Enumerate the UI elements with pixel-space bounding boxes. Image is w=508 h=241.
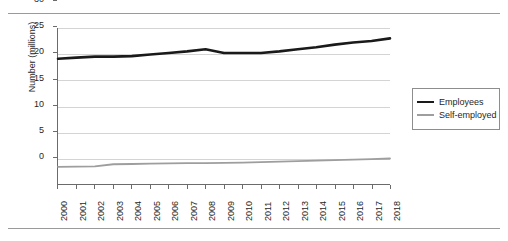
series-line-self-employed (58, 159, 390, 167)
x-tick-mark (242, 185, 243, 189)
x-tick-mark (279, 185, 280, 189)
chart-legend: Employees Self-employed (412, 88, 500, 130)
x-tick-label: 2010 (245, 201, 254, 221)
y-tick-label: 0 (18, 152, 44, 161)
x-tick-label: 2005 (153, 201, 162, 221)
y-tick-label: 10 (18, 100, 44, 109)
x-tick-mark (150, 185, 151, 189)
x-tick-mark (372, 185, 373, 189)
y-tick-label: 30 (18, 0, 44, 4)
x-tick-mark (187, 185, 188, 189)
legend-swatch-line-icon (417, 114, 434, 116)
y-tick-label: 25 (18, 21, 44, 30)
x-tick-label: 2017 (375, 201, 384, 221)
x-tick-label: 2003 (116, 201, 125, 221)
x-tick-label: 2004 (134, 201, 143, 221)
x-tick-mark (261, 185, 262, 189)
x-tick-mark (316, 185, 317, 189)
x-tick-mark (76, 185, 77, 189)
legend-item-self-employed[interactable]: Self-employed (417, 110, 495, 120)
x-tick-label: 2001 (79, 201, 88, 221)
x-tick-mark (113, 185, 114, 189)
x-tick-label: 2009 (227, 201, 236, 221)
x-tick-label: 2018 (393, 201, 402, 221)
x-tick-label: 2006 (171, 201, 180, 221)
x-tick-label: 2012 (282, 201, 291, 221)
x-tick-label: 2000 (60, 201, 69, 221)
legend-label: Self-employed (439, 110, 497, 120)
x-tick-label: 2007 (190, 201, 199, 221)
legend-item-employees[interactable]: Employees (417, 97, 495, 107)
y-tick-label: 20 (18, 47, 44, 56)
y-tick-mark (53, 26, 57, 27)
x-tick-label: 2014 (319, 201, 328, 221)
x-tick-mark (353, 185, 354, 189)
chart-figure: Number (millions) 051015202530 200020012… (0, 0, 508, 241)
x-tick-label: 2016 (356, 201, 365, 221)
x-tick-mark (335, 185, 336, 189)
y-tick-label: 5 (18, 126, 44, 135)
x-tick-label: 2015 (338, 201, 347, 221)
x-tick-label: 2011 (264, 202, 273, 221)
x-tick-mark (390, 185, 391, 189)
x-tick-mark (94, 185, 95, 189)
series-line-employees (58, 38, 390, 58)
y-tick-mark (53, 0, 57, 1)
legend-label: Employees (439, 97, 484, 107)
x-tick-label: 2002 (97, 201, 106, 221)
y-tick-label: 15 (18, 74, 44, 83)
plot-area (57, 28, 390, 185)
x-tick-label: 2013 (301, 201, 310, 221)
series-lines (58, 28, 390, 184)
x-tick-label: 2008 (208, 201, 217, 221)
y-axis-ticks: 051015202530 (26, 0, 52, 157)
x-tick-mark (298, 185, 299, 189)
x-tick-mark (57, 185, 58, 189)
x-tick-mark (205, 185, 206, 189)
x-tick-mark (168, 185, 169, 189)
x-axis-ticks: 2000200120022003200420052006200720082009… (57, 185, 390, 241)
top-divider (8, 13, 500, 14)
x-tick-mark (131, 185, 132, 189)
legend-swatch-line-icon (417, 101, 434, 103)
x-tick-mark (224, 185, 225, 189)
